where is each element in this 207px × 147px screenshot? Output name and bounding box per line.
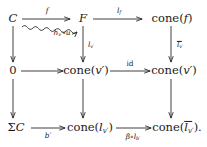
node-cone-f: cone(f) [152, 13, 193, 25]
label-beta-circ-l-b-prime: β∘lb′ [126, 133, 141, 141]
node-cone-lv: cone(lv′) [67, 122, 113, 134]
label-id: id [126, 60, 133, 67]
node-F: F [79, 13, 87, 25]
label-f: f [46, 7, 49, 14]
commutative-diagram: C F cone(f) 0 cone(v′) cone(v′) ΣC cone(… [0, 0, 207, 147]
label-b-prime: b′ [45, 132, 51, 139]
label-l-f: lf [117, 7, 121, 15]
node-cone-v-middle: cone(v′) [63, 65, 109, 77]
node-cone-lbar-v: cone(lv′). [152, 122, 202, 134]
label-lbar-v-prime-right: lv′ [177, 41, 183, 49]
label-h-v-prime-circ-u: hv′∘u [53, 29, 70, 37]
label-l-v-prime-middle: lv′ [88, 41, 94, 49]
node-zero: 0 [9, 65, 16, 77]
node-cone-v-right: cone(v′) [151, 65, 197, 77]
node-sigma-C: ΣC [8, 122, 25, 134]
node-C: C [9, 13, 18, 25]
